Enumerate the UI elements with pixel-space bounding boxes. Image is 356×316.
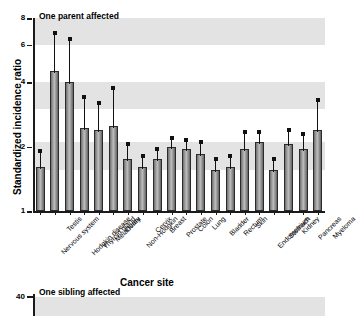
bar bbox=[269, 170, 278, 211]
bar bbox=[313, 130, 322, 211]
error-bar-cap bbox=[38, 149, 42, 153]
x-axis-line bbox=[33, 211, 325, 213]
bar bbox=[226, 167, 235, 211]
bar bbox=[80, 128, 89, 211]
x-axis-tick bbox=[99, 211, 100, 215]
y-axis-line bbox=[33, 18, 35, 212]
panel-title-one-parent: One parent affected bbox=[39, 11, 119, 21]
x-axis-tick bbox=[55, 211, 56, 215]
error-bar-cap bbox=[184, 138, 188, 142]
panel-band-bottom bbox=[35, 297, 325, 316]
y-axis-tick bbox=[27, 147, 32, 149]
error-bar bbox=[84, 97, 85, 129]
error-bar-cap bbox=[141, 154, 145, 158]
error-bar bbox=[200, 142, 201, 156]
error-bar-cap bbox=[272, 157, 276, 161]
error-bar bbox=[98, 103, 99, 132]
y-tick-label-40: 40 bbox=[5, 294, 25, 301]
error-bar-cap bbox=[53, 31, 57, 35]
x-axis-tick bbox=[274, 211, 275, 215]
error-bar bbox=[69, 39, 70, 84]
bar bbox=[196, 154, 205, 211]
panel-one-sibling-affected: 40 bbox=[0, 294, 327, 316]
error-bar-cap bbox=[316, 98, 320, 102]
error-bar-cap bbox=[68, 37, 72, 41]
y-axis-line-bottom bbox=[33, 294, 35, 316]
error-bar bbox=[317, 100, 318, 132]
error-bar bbox=[40, 151, 41, 169]
background-band bbox=[33, 142, 325, 170]
y-tick-40 bbox=[27, 296, 33, 298]
bar bbox=[138, 167, 147, 211]
y-axis-title: Standardized incidence ratio bbox=[12, 59, 23, 195]
x-axis-tick bbox=[216, 211, 217, 215]
bar bbox=[94, 130, 103, 211]
error-bar-cap bbox=[111, 86, 115, 90]
y-axis-tick bbox=[27, 82, 32, 84]
bar bbox=[211, 170, 220, 211]
bar bbox=[240, 149, 249, 211]
x-axis-tick bbox=[318, 211, 319, 215]
error-bar bbox=[244, 132, 245, 151]
plot-area-top bbox=[33, 18, 325, 211]
bar bbox=[284, 144, 293, 211]
x-axis-tick bbox=[70, 211, 71, 215]
background-band bbox=[33, 18, 325, 45]
error-bar-cap bbox=[199, 140, 203, 144]
panel-title-one-sibling: One sibling affected bbox=[39, 287, 120, 297]
bar bbox=[36, 167, 45, 211]
x-axis-tick bbox=[40, 211, 41, 215]
x-axis-category-label: Lung bbox=[210, 215, 226, 231]
error-bar bbox=[127, 144, 128, 161]
error-bar bbox=[113, 88, 114, 128]
x-axis-tick bbox=[157, 211, 158, 215]
bar bbox=[299, 149, 308, 211]
x-axis-title: Cancer site bbox=[120, 277, 174, 288]
error-bar bbox=[54, 33, 55, 73]
x-axis-tick bbox=[143, 211, 144, 215]
bar bbox=[153, 159, 162, 211]
x-axis-tick bbox=[128, 211, 129, 215]
x-axis-tick bbox=[303, 211, 304, 215]
error-bar-cap bbox=[257, 130, 261, 134]
error-bar-cap bbox=[243, 130, 247, 134]
panel-one-parent-affected: 12468 Nervous systemTestisHodgkin diseas… bbox=[0, 0, 327, 215]
error-bar-cap bbox=[97, 101, 101, 105]
error-bar-cap bbox=[301, 132, 305, 136]
error-bar-cap bbox=[155, 147, 159, 151]
error-bar bbox=[303, 134, 304, 151]
x-axis-tick bbox=[113, 211, 114, 215]
bar bbox=[65, 82, 74, 211]
y-axis-tick-label: 1 bbox=[5, 206, 25, 215]
error-bar-cap bbox=[228, 154, 232, 158]
y-axis-tick bbox=[27, 211, 32, 213]
y-axis-tick-label: 8 bbox=[5, 13, 25, 22]
y-axis-tick-label: 6 bbox=[5, 40, 25, 49]
error-bar-cap bbox=[170, 136, 174, 140]
bar bbox=[255, 142, 264, 211]
error-bar bbox=[288, 130, 289, 147]
x-axis-tick bbox=[230, 211, 231, 215]
bar bbox=[50, 71, 59, 211]
error-bar-cap bbox=[214, 157, 218, 161]
x-axis-tick bbox=[289, 211, 290, 215]
x-axis-tick bbox=[186, 211, 187, 215]
bar bbox=[109, 126, 118, 211]
bar bbox=[167, 147, 176, 211]
error-bar-cap bbox=[287, 128, 291, 132]
bar bbox=[123, 159, 132, 211]
bar bbox=[182, 149, 191, 211]
x-axis-tick bbox=[84, 211, 85, 215]
y-axis-tick bbox=[27, 45, 32, 47]
error-bar-cap bbox=[82, 95, 86, 99]
error-bar-cap bbox=[126, 142, 130, 146]
y-axis-tick bbox=[27, 18, 32, 20]
background-band bbox=[33, 82, 325, 109]
